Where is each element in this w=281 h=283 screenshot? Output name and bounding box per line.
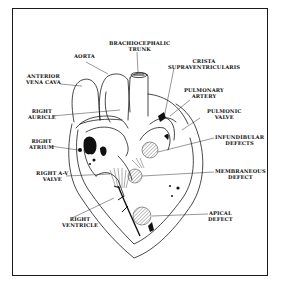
label-crista-supraventricularis: CRISTA SUPRAVENTRICULARIS <box>168 58 240 70</box>
label-brachiocephalic-trunk: BRACHIOCEPHALIC TRUNK <box>109 40 170 52</box>
label-membranous-defect: MEMBRANEOUS DEFECT <box>215 168 266 180</box>
label-right-av-valve: RIGHT A-V VALVE <box>36 170 68 182</box>
label-right-ventricle: RIGHT VENTRICLE <box>62 216 98 228</box>
label-apical-defect: APICAL DEFECT <box>208 210 233 222</box>
label-right-auricle: RIGHT AURICLE <box>28 108 56 120</box>
label-pulmonic-valve: PULMONIC VALVE <box>207 108 241 120</box>
brachiocephalic-trunk-shape <box>130 73 148 116</box>
infundibular-defect-circle <box>142 142 158 158</box>
label-aorta: AORTA <box>74 53 95 59</box>
membranous-defect-circle <box>128 169 142 183</box>
apical-defect-circle <box>133 207 151 225</box>
label-anterior-vena-cava: ANTERIOR VENA CAVA <box>26 73 61 85</box>
label-pulmonary-artery: PULMONARY ARTERY <box>184 87 224 99</box>
label-right-atrium: RIGHT ATRIUM <box>29 138 54 150</box>
label-infundibular-defects: INFUNDIBULAR DEFECTS <box>215 134 264 146</box>
aorta-shape <box>99 74 130 120</box>
